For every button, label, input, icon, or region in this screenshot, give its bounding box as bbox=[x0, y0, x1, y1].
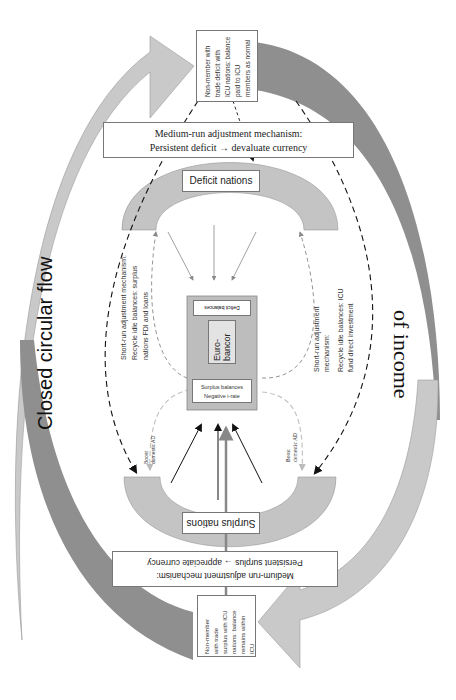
text-line: nations: balance bbox=[230, 610, 239, 654]
surplus-line2: Negative i-rate bbox=[193, 392, 251, 401]
text-line: paid to ICU bbox=[233, 37, 243, 97]
deficit-nations-label: Deficit nations bbox=[182, 170, 260, 192]
medium-run-bottom-line2: Persistent surplus → appreciate currency bbox=[113, 556, 337, 569]
surplus-line1: Surplus balances bbox=[193, 383, 251, 392]
boost-right-label: Boost domestic AD bbox=[285, 433, 299, 462]
text-line: remains within bbox=[239, 610, 248, 654]
text-line: Non-member bbox=[203, 610, 212, 654]
text-line: ICU nations: balance bbox=[223, 37, 233, 97]
medium-run-top-line2: Persistent deficit → devaluate currency bbox=[104, 141, 353, 155]
surplus-balances-box: Surplus balances Negative i-rate bbox=[192, 379, 252, 403]
boost-left-line1: Boost bbox=[143, 436, 150, 464]
text-line: ICU bbox=[248, 610, 257, 654]
short-run-right-line1: Short-run adjustment bbox=[312, 288, 322, 372]
title-left: Closed circular flow bbox=[34, 257, 57, 430]
text-line: surplus with ICU bbox=[221, 610, 230, 654]
circular-flow-diagram: Closed circular flow of income Non-membe… bbox=[0, 0, 456, 700]
short-run-right-line4: fund direct investment bbox=[346, 288, 356, 372]
short-run-left-line2: Recycle idle balances: surplus bbox=[129, 255, 140, 360]
short-run-right-line2: mechanism: bbox=[322, 288, 332, 372]
medium-run-top-box: Medium-run adjustment mechanism: Persist… bbox=[103, 122, 354, 158]
short-run-right-label: Short-run adjustment mechanism: Recycle … bbox=[312, 288, 356, 372]
boost-right-line2: domestic AD bbox=[292, 433, 299, 462]
text-line: Non-member with bbox=[203, 37, 213, 97]
short-run-left-line3: nations FDI and loans bbox=[140, 255, 151, 360]
short-run-right-line3: Recycle idle balances: ICU bbox=[336, 288, 346, 372]
medium-run-bottom-box: Medium-run adjustment mechanism: Persist… bbox=[112, 551, 338, 587]
medium-run-top-line1: Medium-run adjustment mechanism: bbox=[104, 127, 353, 141]
short-run-left-line1: Short-run adjustment mechanism: bbox=[118, 255, 129, 360]
deficit-balances-box: Deficit balances bbox=[193, 300, 251, 316]
text-line: trade deficit with bbox=[213, 37, 223, 97]
eurobancor-box: Euro- bancor bbox=[208, 320, 236, 364]
text-line: members as normal bbox=[243, 37, 253, 97]
surplus-nations-label: Surplus nations bbox=[182, 512, 260, 534]
eurobancor-line1: Euro- bbox=[212, 333, 222, 361]
top-nonmember-box: Non-member with trade deficit with ICU n… bbox=[196, 30, 258, 102]
boost-right-line1: Boost bbox=[285, 433, 292, 462]
boost-left-label: Boost domestic AD bbox=[143, 436, 157, 464]
short-run-left-label: Short-run adjustment mechanism: Recycle … bbox=[118, 255, 151, 360]
title-right: of income bbox=[388, 310, 414, 399]
text-line: with trade bbox=[212, 610, 221, 654]
eurobancor-line2: bancor bbox=[222, 333, 232, 361]
boost-left-line2: domestic AD bbox=[150, 436, 157, 464]
medium-run-bottom-line1: Medium-run adjustment mechanism: bbox=[113, 569, 337, 582]
bottom-nonmember-box: Non-member with trade surplus with ICU n… bbox=[197, 595, 256, 657]
